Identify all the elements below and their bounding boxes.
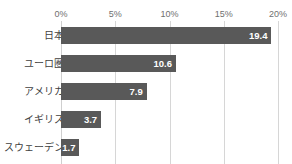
bar-row: ユーロ圏10.6 [0, 55, 292, 72]
bar-value-label: 1.7 [62, 139, 75, 156]
bar-row: 日本19.4 [0, 27, 292, 44]
chart-title-clipped [0, 0, 292, 5]
category-label: スウェーデン [4, 139, 64, 156]
category-label: アメリカ [24, 83, 64, 100]
x-tick-label: 15% [215, 8, 233, 20]
bar-chart: 0%5%10%15%20% 日本19.4ユーロ圏10.6アメリカ7.9イギリス3… [0, 0, 292, 164]
bar-row: アメリカ7.9 [0, 83, 292, 100]
x-axis-tick-labels: 0%5%10%15%20% [0, 8, 292, 20]
bar-value-label: 10.6 [154, 55, 173, 72]
x-tick-label: 20% [269, 8, 287, 20]
category-label: イギリス [24, 111, 64, 128]
x-tick-label: 5% [109, 8, 122, 20]
x-tick-label: 10% [160, 8, 178, 20]
bar-row: イギリス3.7 [0, 111, 292, 128]
bar-value-label: 3.7 [84, 111, 97, 128]
bar-value-label: 7.9 [129, 83, 142, 100]
x-tick-label: 0% [54, 8, 67, 20]
bar-row: スウェーデン1.7 [0, 139, 292, 156]
bar [61, 27, 271, 44]
plot-area: 日本19.4ユーロ圏10.6アメリカ7.9イギリス3.7スウェーデン1.7 [0, 21, 292, 164]
bar-value-label: 19.4 [249, 27, 268, 44]
category-label: ユーロ圏 [24, 55, 64, 72]
